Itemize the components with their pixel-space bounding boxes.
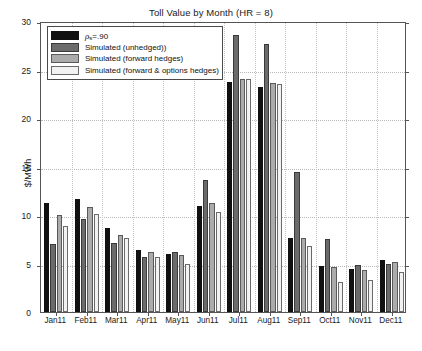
bar — [216, 212, 221, 312]
bar — [264, 44, 269, 312]
legend-swatch-icon-3 — [51, 66, 79, 75]
bar — [203, 180, 208, 312]
y-tick-label: 5 — [1, 260, 31, 270]
bar — [197, 206, 202, 312]
legend-label-1: Simulated (unhedged)) — [85, 43, 166, 52]
y-tick-mark-right — [405, 23, 409, 24]
bar — [294, 172, 299, 312]
x-axis-tick-labels: Jan11Feb11Mar11Apr11May11Jun11Jul11Aug11… — [40, 316, 406, 332]
bar — [399, 272, 404, 312]
bar — [368, 280, 373, 312]
y-tick-label: 30 — [1, 17, 31, 27]
legend-label-0-subscript: s — [89, 35, 92, 41]
bar — [105, 228, 110, 312]
bar — [301, 238, 306, 312]
chart-title: Toll Value by Month (HR = 8) — [0, 7, 422, 18]
chart-legend: ρs=.90 Simulated (unhedged)) Simulated (… — [47, 26, 223, 80]
bar-group — [349, 23, 373, 312]
bar — [325, 239, 330, 312]
bar — [233, 35, 238, 312]
legend-item-unhedged: Simulated (unhedged)) — [51, 42, 218, 54]
legend-item-forward-hedges: Simulated (forward hedges) — [51, 53, 218, 65]
bar-group — [227, 23, 251, 312]
legend-item-rho: ρs=.90 — [51, 30, 218, 42]
legend-label-0: ρs=.90 — [85, 31, 108, 41]
bar — [44, 203, 49, 312]
y-axis-tick-labels: 051015202530 — [0, 22, 36, 313]
bar — [63, 226, 68, 312]
bar — [142, 257, 147, 312]
bar — [136, 250, 141, 312]
bar — [270, 83, 275, 312]
bar — [258, 87, 263, 312]
bar — [155, 257, 160, 312]
y-tick-label: 25 — [1, 66, 31, 76]
bar — [355, 265, 360, 312]
bar — [172, 252, 177, 312]
bar — [50, 244, 55, 312]
bar — [349, 269, 354, 312]
bar-group — [380, 23, 404, 312]
bar — [185, 264, 190, 312]
bar — [118, 235, 123, 312]
bar — [111, 243, 116, 312]
bar — [380, 260, 385, 312]
bar — [94, 214, 99, 312]
y-tick-mark-right — [405, 169, 409, 170]
bar — [124, 238, 129, 312]
y-tick-mark-right — [405, 266, 409, 267]
legend-label-2: Simulated (forward hedges) — [85, 54, 183, 63]
x-tick-label: Dec11 — [366, 316, 416, 325]
bar — [392, 262, 397, 312]
y-tick-label: 20 — [1, 114, 31, 124]
bar — [277, 84, 282, 312]
bar — [209, 203, 214, 312]
y-tick-label: 15 — [1, 163, 31, 173]
bar — [288, 238, 293, 312]
bar — [246, 79, 251, 312]
chart-root: Toll Value by Month (HR = 8) $/MWh 05101… — [0, 0, 422, 351]
bar — [331, 267, 336, 312]
y-tick-mark-right — [405, 217, 409, 218]
bar — [148, 252, 153, 312]
y-tick-mark-right — [405, 72, 409, 73]
legend-item-forward-options-hedges: Simulated (forward & options hedges) — [51, 65, 218, 77]
bar — [166, 254, 171, 312]
bar-group — [319, 23, 343, 312]
bar — [338, 282, 343, 312]
y-tick-label: 10 — [1, 211, 31, 221]
bar — [386, 264, 391, 312]
bar — [87, 207, 92, 312]
bar — [81, 219, 86, 312]
bar — [319, 266, 324, 312]
legend-swatch-icon-2 — [51, 54, 79, 63]
bar — [179, 255, 184, 312]
bar — [227, 82, 232, 312]
bar — [75, 199, 80, 312]
legend-swatch-icon-1 — [51, 43, 79, 52]
bar-group — [288, 23, 312, 312]
legend-label-0-suffix: =.90 — [92, 32, 108, 41]
legend-label-3: Simulated (forward & options hedges) — [85, 66, 219, 75]
bar-group — [258, 23, 282, 312]
y-tick-mark-right — [405, 120, 409, 121]
bar — [307, 246, 312, 312]
y-tick-label: 0 — [1, 308, 31, 318]
bar — [240, 79, 245, 312]
bar — [57, 215, 62, 312]
legend-swatch-icon-0 — [51, 31, 79, 40]
bar — [362, 270, 367, 312]
